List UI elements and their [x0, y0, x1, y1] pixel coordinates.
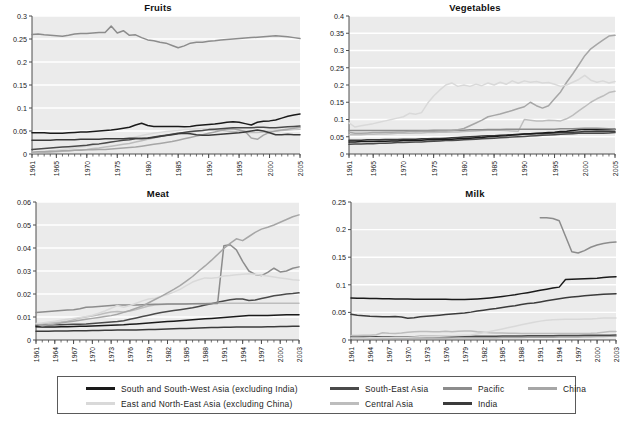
svg-text:1990: 1990 — [206, 161, 213, 176]
svg-text:1980: 1980 — [461, 161, 468, 176]
chart-meat: 00.010.020.030.040.050.06196119641967197… — [0, 186, 316, 372]
svg-text:1985: 1985 — [499, 347, 506, 362]
svg-text:0.3: 0.3 — [334, 46, 344, 55]
legend-label: East and North-East Asia (excluding Chin… — [121, 399, 293, 409]
svg-text:1967: 1967 — [386, 347, 393, 362]
svg-text:1967: 1967 — [71, 347, 78, 362]
svg-text:0.2: 0.2 — [334, 81, 344, 90]
legend-label: India — [478, 399, 497, 409]
svg-text:0: 0 — [340, 150, 344, 159]
svg-text:1961: 1961 — [29, 161, 36, 176]
legend-swatch-icon — [443, 402, 472, 405]
svg-text:0: 0 — [27, 336, 31, 345]
svg-text:0.06: 0.06 — [17, 198, 31, 207]
svg-text:1980: 1980 — [145, 161, 152, 176]
svg-text:1995: 1995 — [236, 161, 243, 176]
svg-text:1973: 1973 — [424, 347, 431, 362]
svg-text:0.25: 0.25 — [330, 64, 344, 73]
svg-text:1970: 1970 — [84, 161, 91, 176]
svg-text:0.3: 0.3 — [17, 12, 27, 21]
svg-text:1975: 1975 — [114, 161, 121, 176]
svg-text:2000: 2000 — [277, 347, 284, 362]
svg-text:1988: 1988 — [518, 347, 525, 362]
svg-text:1988: 1988 — [202, 347, 209, 362]
panel-vegetables: Vegetables 00.050.10.150.20.250.30.350.4… — [317, 0, 633, 186]
svg-text:0.1: 0.1 — [334, 115, 344, 124]
svg-text:0.05: 0.05 — [330, 133, 344, 142]
chart-fruits: 00.050.10.150.20.250.3196119651970197519… — [0, 0, 316, 186]
svg-text:1965: 1965 — [53, 161, 60, 176]
svg-text:1961: 1961 — [346, 161, 353, 176]
chart-grid: Fruits 00.050.10.150.20.250.319611965197… — [0, 0, 633, 372]
svg-text:1975: 1975 — [431, 161, 438, 176]
svg-text:0.35: 0.35 — [330, 29, 344, 38]
svg-text:0: 0 — [342, 336, 346, 345]
svg-text:0.03: 0.03 — [17, 267, 31, 276]
svg-text:0.2: 0.2 — [336, 225, 346, 234]
panel-fruits: Fruits 00.050.10.150.20.250.319611965197… — [0, 0, 316, 186]
svg-text:1982: 1982 — [165, 347, 172, 362]
panel-meat: Meat 00.010.020.030.040.050.061961196419… — [0, 186, 316, 372]
svg-text:1982: 1982 — [481, 347, 488, 362]
svg-text:1961: 1961 — [33, 347, 40, 362]
svg-text:1979: 1979 — [462, 347, 469, 362]
legend-label: Pacific — [478, 384, 504, 394]
chart-milk: 00.050.10.150.20.25196119641967197019731… — [317, 186, 633, 372]
svg-text:0.2: 0.2 — [17, 58, 27, 67]
legend-label: South-East Asia — [365, 384, 428, 394]
panel-milk: Milk 00.050.10.150.20.251961196419671970… — [317, 186, 633, 372]
svg-text:1964: 1964 — [52, 347, 59, 362]
svg-text:0.1: 0.1 — [336, 281, 346, 290]
legend-swatch-icon — [86, 387, 115, 390]
legend-swatch-icon — [86, 402, 115, 405]
svg-text:1965: 1965 — [370, 161, 377, 176]
svg-text:1976: 1976 — [127, 347, 134, 362]
svg-text:1985: 1985 — [183, 347, 190, 362]
svg-text:2003: 2003 — [613, 347, 620, 362]
svg-text:1976: 1976 — [443, 347, 450, 362]
svg-text:1985: 1985 — [175, 161, 182, 176]
svg-text:2000: 2000 — [594, 347, 601, 362]
svg-text:1979: 1979 — [146, 347, 153, 362]
svg-text:1973: 1973 — [108, 347, 115, 362]
svg-text:1995: 1995 — [552, 161, 559, 176]
svg-text:1997: 1997 — [575, 347, 582, 362]
svg-text:0.1: 0.1 — [17, 104, 27, 113]
svg-text:0.05: 0.05 — [13, 127, 27, 136]
legend-swatch-icon — [330, 402, 359, 405]
legend-item: East and North-East Asia (excluding Chin… — [86, 397, 293, 410]
svg-text:1994: 1994 — [556, 347, 563, 362]
legend-swatch-icon — [443, 387, 472, 390]
svg-text:2003: 2003 — [296, 347, 303, 362]
legend: South and South-West Asia (excluding Ind… — [57, 376, 576, 414]
svg-text:0.4: 0.4 — [334, 12, 344, 21]
chart-vegetables: 00.050.10.150.20.250.30.350.419611965197… — [317, 0, 633, 186]
legend-item: Pacific — [443, 382, 504, 395]
svg-text:1994: 1994 — [240, 347, 247, 362]
svg-text:2005: 2005 — [612, 161, 619, 176]
svg-text:0.05: 0.05 — [17, 221, 31, 230]
legend-item: South-East Asia — [330, 382, 428, 395]
svg-text:1991: 1991 — [537, 347, 544, 362]
legend-item: India — [443, 397, 497, 410]
svg-text:0.15: 0.15 — [330, 98, 344, 107]
legend-label: China — [563, 384, 586, 394]
svg-text:0.25: 0.25 — [332, 198, 346, 207]
svg-text:0.01: 0.01 — [17, 313, 31, 322]
svg-text:1990: 1990 — [521, 161, 528, 176]
svg-text:2000: 2000 — [582, 161, 589, 176]
svg-text:0.15: 0.15 — [332, 253, 346, 262]
svg-text:1961: 1961 — [348, 347, 355, 362]
legend-label: Central Asia — [365, 399, 413, 409]
svg-text:0.25: 0.25 — [13, 35, 27, 44]
svg-text:0: 0 — [23, 150, 27, 159]
legend-swatch-icon — [528, 387, 557, 390]
svg-text:0.15: 0.15 — [13, 81, 27, 90]
svg-text:0.02: 0.02 — [17, 290, 31, 299]
svg-text:1985: 1985 — [491, 161, 498, 176]
svg-text:0.04: 0.04 — [17, 244, 31, 253]
svg-text:1970: 1970 — [400, 161, 407, 176]
legend-item: China — [528, 382, 586, 395]
svg-text:0.05: 0.05 — [332, 308, 346, 317]
legend-swatch-icon — [330, 387, 359, 390]
